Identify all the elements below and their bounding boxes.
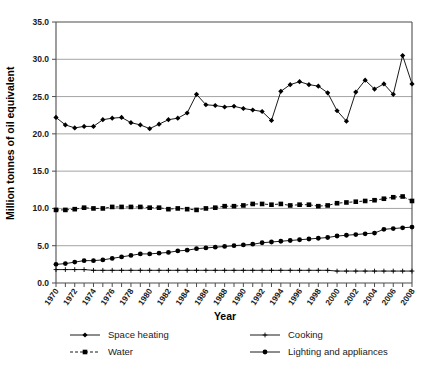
data-point <box>91 268 96 273</box>
legend-label: Water <box>108 346 133 357</box>
y-axis-ticks: 0.05.010.015.020.025.030.035.0 <box>32 17 56 288</box>
data-point <box>72 267 77 272</box>
series-line <box>56 56 412 129</box>
data-point <box>325 235 330 240</box>
line-chart: Million tonnes of oil equivalent 0.05.01… <box>0 0 429 365</box>
data-point <box>335 269 340 274</box>
data-point <box>391 195 396 200</box>
data-point <box>382 196 387 201</box>
data-point <box>91 206 96 211</box>
data-point <box>297 202 302 207</box>
data-point <box>288 203 293 208</box>
legend-marker-circle-icon <box>263 350 268 355</box>
data-point <box>100 268 105 273</box>
y-axis-title: Million tonnes of oil equivalent <box>4 66 16 220</box>
x-tick-label: 1982 <box>155 287 173 307</box>
data-point <box>400 53 405 58</box>
y-tick-label: 0.0 <box>37 278 49 288</box>
data-point <box>63 267 68 272</box>
y-tick-label: 25.0 <box>32 92 49 102</box>
data-point <box>72 125 77 130</box>
x-tick-label: 1984 <box>174 287 192 307</box>
x-axis-ticks: 1970197219741976197819801982198419861988… <box>43 283 417 307</box>
data-point <box>372 269 377 274</box>
data-point <box>335 201 340 206</box>
data-point <box>316 268 321 273</box>
data-point <box>232 268 237 273</box>
data-point <box>194 208 199 213</box>
x-tick-label: 1986 <box>193 287 211 307</box>
data-point <box>213 205 218 210</box>
data-point <box>410 269 415 274</box>
data-point <box>147 252 152 257</box>
data-point <box>147 205 152 210</box>
data-point <box>344 200 349 205</box>
data-point <box>372 198 377 203</box>
data-point <box>363 269 368 274</box>
data-point <box>119 115 124 120</box>
data-point <box>344 233 349 238</box>
legend-label: Cooking <box>288 329 323 340</box>
data-point <box>157 205 162 210</box>
data-point <box>110 116 115 121</box>
x-tick-label: 2000 <box>324 287 342 307</box>
x-tick-label: 2002 <box>343 287 361 307</box>
data-point <box>119 268 124 273</box>
data-point <box>213 268 218 273</box>
x-tick-label: 1992 <box>249 287 267 307</box>
data-point <box>279 202 284 207</box>
data-point <box>409 81 414 86</box>
x-tick-label: 1990 <box>230 287 248 307</box>
data-point <box>391 226 396 231</box>
data-point <box>91 258 96 263</box>
legend-item-water[interactable]: Water <box>70 346 133 357</box>
chart-legend: Space heatingCookingWaterLighting and ap… <box>70 329 388 357</box>
data-point <box>222 104 227 109</box>
legend-item-lighting-and-appliances[interactable]: Lighting and appliances <box>250 346 388 357</box>
data-point <box>260 268 265 273</box>
legend-label: Lighting and appliances <box>288 346 388 357</box>
data-point <box>194 268 199 273</box>
data-point <box>260 240 265 245</box>
series-space-heating <box>53 53 414 131</box>
data-point <box>335 234 340 239</box>
data-point <box>269 202 274 207</box>
data-point <box>63 261 68 266</box>
legend-marker-diamond-icon <box>82 332 87 337</box>
data-point <box>203 268 208 273</box>
y-tick-label: 10.0 <box>32 203 49 213</box>
data-point <box>166 268 171 273</box>
x-tick-label: 1994 <box>268 287 286 307</box>
data-point <box>232 243 237 248</box>
data-point <box>147 126 152 131</box>
y-tick-label: 35.0 <box>32 17 49 27</box>
data-point <box>185 207 190 212</box>
data-point <box>250 242 255 247</box>
data-point <box>278 239 283 244</box>
data-point <box>241 203 246 208</box>
data-point <box>288 268 293 273</box>
data-point <box>213 245 218 250</box>
data-point <box>110 268 115 273</box>
data-point <box>222 244 227 249</box>
data-point <box>213 103 218 108</box>
data-point <box>381 269 386 274</box>
series-water <box>54 194 415 212</box>
data-point <box>110 205 115 210</box>
legend-marker-plus-icon <box>263 333 268 338</box>
data-point <box>231 104 236 109</box>
legend-item-cooking[interactable]: Cooking <box>250 329 323 340</box>
data-point <box>203 246 208 251</box>
data-point <box>353 269 358 274</box>
x-tick-label: 1998 <box>305 287 323 307</box>
data-point <box>82 258 87 263</box>
data-point <box>157 251 162 256</box>
data-point <box>353 199 358 204</box>
data-point <box>222 204 227 209</box>
x-tick-label: 2008 <box>399 287 417 307</box>
gridlines <box>56 59 412 245</box>
data-point <box>307 237 312 242</box>
data-point <box>372 231 377 236</box>
data-point <box>307 202 312 207</box>
legend-item-space-heating[interactable]: Space heating <box>70 329 169 340</box>
